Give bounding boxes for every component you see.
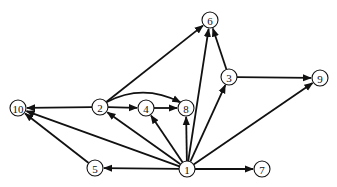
edge-1-to-2 [107, 112, 180, 164]
edge-5-to-10 [25, 114, 89, 164]
node-9: 9 [312, 70, 328, 86]
node-label: 4 [143, 103, 149, 115]
edge-1-to-9 [194, 83, 313, 164]
node-label: 7 [259, 164, 265, 176]
node-label: 6 [207, 15, 213, 27]
node-label: 5 [92, 163, 98, 175]
node-label: 2 [97, 102, 103, 114]
node-2: 2 [92, 99, 108, 115]
directed-graph: 12345678910 [0, 0, 337, 187]
node-1: 1 [179, 161, 195, 177]
edge-1-to-6 [188, 29, 208, 161]
node-3: 3 [221, 69, 237, 85]
node-5: 5 [87, 160, 103, 176]
edge-2-to-10 [27, 107, 92, 108]
nodes: 12345678910 [10, 12, 328, 177]
edge-3-to-6 [213, 29, 227, 70]
edge-2-to-4 [108, 107, 137, 108]
edge-3-to-9 [237, 77, 311, 78]
node-4: 4 [138, 100, 154, 116]
node-label: 10 [13, 103, 25, 115]
node-label: 8 [183, 103, 189, 115]
node-label: 1 [184, 164, 190, 176]
node-8: 8 [178, 100, 194, 116]
node-label: 3 [226, 72, 232, 84]
node-7: 7 [254, 161, 270, 177]
node-6: 6 [202, 12, 218, 28]
edge-1-to-8 [186, 117, 187, 161]
edge-2-to-6 [106, 26, 203, 102]
node-label: 9 [317, 73, 323, 85]
edge-1-to-5 [104, 168, 179, 169]
node-10: 10 [10, 100, 26, 116]
edge-1-to-3 [190, 85, 225, 162]
edges [25, 26, 312, 169]
edge-1-to-10 [26, 111, 179, 166]
